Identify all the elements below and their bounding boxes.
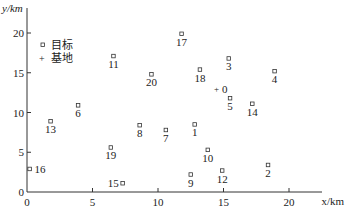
- data-point: 1: [192, 123, 198, 139]
- data-point: 8: [137, 123, 143, 139]
- data-point: 12: [217, 169, 228, 185]
- point-label: 11: [108, 58, 119, 70]
- x-tick-label: 5: [90, 196, 96, 208]
- data-point: 11: [108, 54, 119, 70]
- point-label: 6: [75, 107, 81, 119]
- point-label: 17: [176, 36, 188, 48]
- data-point: 7: [163, 128, 169, 144]
- data-point: 18: [194, 68, 206, 84]
- data-point: 5: [227, 96, 233, 112]
- point-label: 10: [202, 152, 214, 164]
- point-label: 9: [188, 177, 194, 189]
- legend-label-base: 基地: [51, 52, 73, 64]
- scatter-chart: 0510152005101520y/kmx/km 目标+基地 123456789…: [0, 0, 346, 215]
- x-axis-label: x/km: [321, 195, 344, 207]
- point-label: 14: [247, 106, 259, 118]
- point-label: 4: [272, 73, 278, 85]
- axes: 0510152005101520y/kmx/km: [1, 2, 344, 208]
- data-point: 6: [75, 104, 81, 120]
- point-label: 20: [146, 76, 158, 88]
- y-axis-label: y/km: [1, 2, 23, 14]
- data-point: 3: [226, 57, 232, 73]
- data-point: 16: [28, 163, 46, 175]
- y-tick-label: 10: [13, 107, 25, 119]
- x-tick-label: 20: [284, 196, 296, 208]
- data-point: 9: [188, 173, 194, 189]
- plus-marker-icon: +: [214, 84, 219, 94]
- data-point: 17: [176, 32, 188, 48]
- x-tick-label: 0: [24, 196, 30, 208]
- data-point: 10: [202, 148, 214, 164]
- point-label: 1: [192, 126, 198, 138]
- data-point: +0: [214, 83, 228, 95]
- y-tick-label: 20: [13, 27, 25, 39]
- legend-label-target: 目标: [51, 38, 73, 51]
- x-tick-label: 10: [153, 196, 165, 208]
- square-marker-icon: [41, 43, 45, 47]
- data-point: 13: [45, 119, 57, 135]
- legend: 目标+基地: [39, 38, 73, 64]
- data-point: 15: [108, 177, 125, 189]
- y-tick-label: 0: [19, 186, 25, 198]
- point-label: 8: [137, 127, 143, 139]
- data-point: 2: [265, 163, 271, 179]
- point-label: 2: [265, 167, 271, 179]
- point-label: 7: [163, 132, 169, 144]
- y-tick-label: 15: [13, 67, 25, 79]
- point-label: 16: [35, 163, 47, 175]
- point-label: 18: [194, 72, 206, 84]
- point-label: 15: [108, 177, 120, 189]
- y-tick-label: 5: [19, 146, 25, 158]
- point-label: 5: [227, 100, 233, 112]
- square-marker-icon: [121, 182, 125, 186]
- data-point: 4: [272, 69, 278, 85]
- point-label: 13: [45, 123, 57, 135]
- point-label: 19: [105, 149, 117, 161]
- data-point: 19: [105, 146, 117, 162]
- point-label: 3: [226, 60, 232, 72]
- point-label: 0: [222, 83, 228, 95]
- data-point: 14: [247, 102, 259, 118]
- plus-marker-icon: +: [39, 53, 45, 64]
- data-point: 20: [146, 73, 158, 89]
- point-label: 12: [217, 173, 228, 185]
- square-marker-icon: [28, 167, 32, 171]
- x-tick-label: 15: [218, 196, 230, 208]
